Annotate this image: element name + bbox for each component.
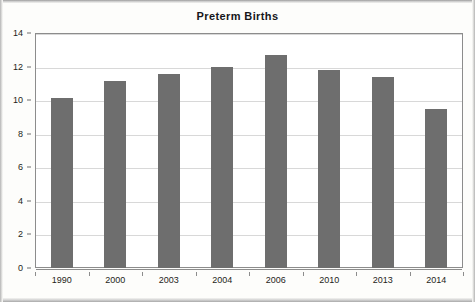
x-tick-mark: [463, 272, 464, 276]
bar-2010: [318, 70, 340, 268]
bar-series: [35, 33, 463, 268]
x-tick-label: 2013: [373, 275, 393, 285]
bar-2014: [425, 109, 447, 268]
x-axis: 19902000200320042006201020132014: [35, 272, 463, 292]
gridline-0: [36, 269, 462, 270]
y-tick-label: 6: [18, 162, 23, 172]
scan-edge-top: [0, 0, 475, 3]
x-tick-label: 2003: [159, 275, 179, 285]
x-tick-mark: [196, 272, 197, 276]
y-tick-label: 4: [18, 196, 23, 206]
bar-2006: [265, 55, 287, 268]
y-tick-mark: [27, 33, 31, 34]
x-tick-mark: [142, 272, 143, 276]
y-tick-label: 0: [18, 263, 23, 273]
y-tick-label: 10: [13, 95, 23, 105]
x-tick-mark: [303, 272, 304, 276]
y-tick-mark: [27, 133, 31, 134]
y-tick-mark: [27, 100, 31, 101]
x-tick-mark: [89, 272, 90, 276]
chart-page: Preterm Births 02468101214 1990200020032…: [0, 0, 475, 302]
x-tick-mark: [249, 272, 250, 276]
y-tick-mark: [27, 167, 31, 168]
y-tick-label: 14: [13, 28, 23, 38]
bar-2000: [104, 81, 126, 268]
x-tick-label: 2004: [212, 275, 232, 285]
y-tick-label: 12: [13, 62, 23, 72]
bar-1990: [51, 98, 73, 268]
x-tick-label: 2006: [266, 275, 286, 285]
bar-2003: [158, 74, 180, 268]
x-tick-mark: [35, 272, 36, 276]
x-tick-label: 1990: [52, 275, 72, 285]
y-tick-mark: [27, 200, 31, 201]
x-tick-mark: [356, 272, 357, 276]
chart-title: Preterm Births: [0, 10, 475, 22]
y-axis: 02468101214: [0, 33, 31, 268]
y-tick-mark: [27, 268, 31, 269]
y-tick-mark: [27, 234, 31, 235]
x-tick-label: 2010: [319, 275, 339, 285]
bar-2013: [372, 77, 394, 268]
scan-edge-bottom: [0, 298, 475, 302]
x-tick-label: 2000: [105, 275, 125, 285]
y-tick-label: 8: [18, 129, 23, 139]
y-tick-label: 2: [18, 229, 23, 239]
y-tick-mark: [27, 66, 31, 67]
bar-2004: [211, 67, 233, 268]
x-tick-mark: [410, 272, 411, 276]
x-tick-label: 2014: [426, 275, 446, 285]
